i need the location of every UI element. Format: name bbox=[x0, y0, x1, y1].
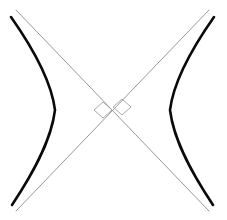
hyperbola-canvas bbox=[0, 0, 227, 220]
hyperbola-figure bbox=[0, 0, 227, 220]
